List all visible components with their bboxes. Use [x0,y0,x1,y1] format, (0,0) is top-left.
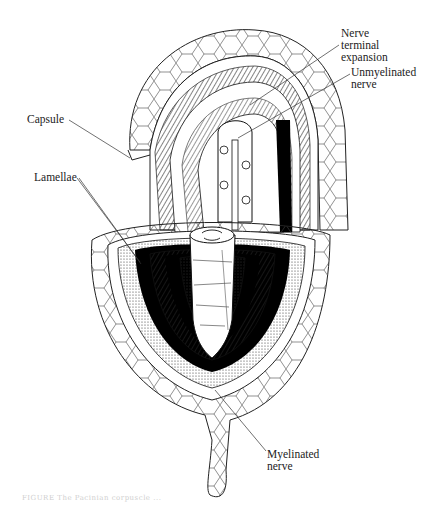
label-unmyelinated-nerve: Unmyelinated nerve [351,66,416,90]
label-myelinated-nerve: Myelinated nerve [267,448,319,472]
label-capsule: Capsule [27,113,64,125]
figure-caption: FIGURE The Pacinian corpuscle ... [22,494,422,502]
label-nerve-terminal-expansion: Nerve terminal expansion [341,27,388,63]
label-lamellae: Lamellae [34,171,77,183]
upper-capsule-hood [128,30,348,232]
